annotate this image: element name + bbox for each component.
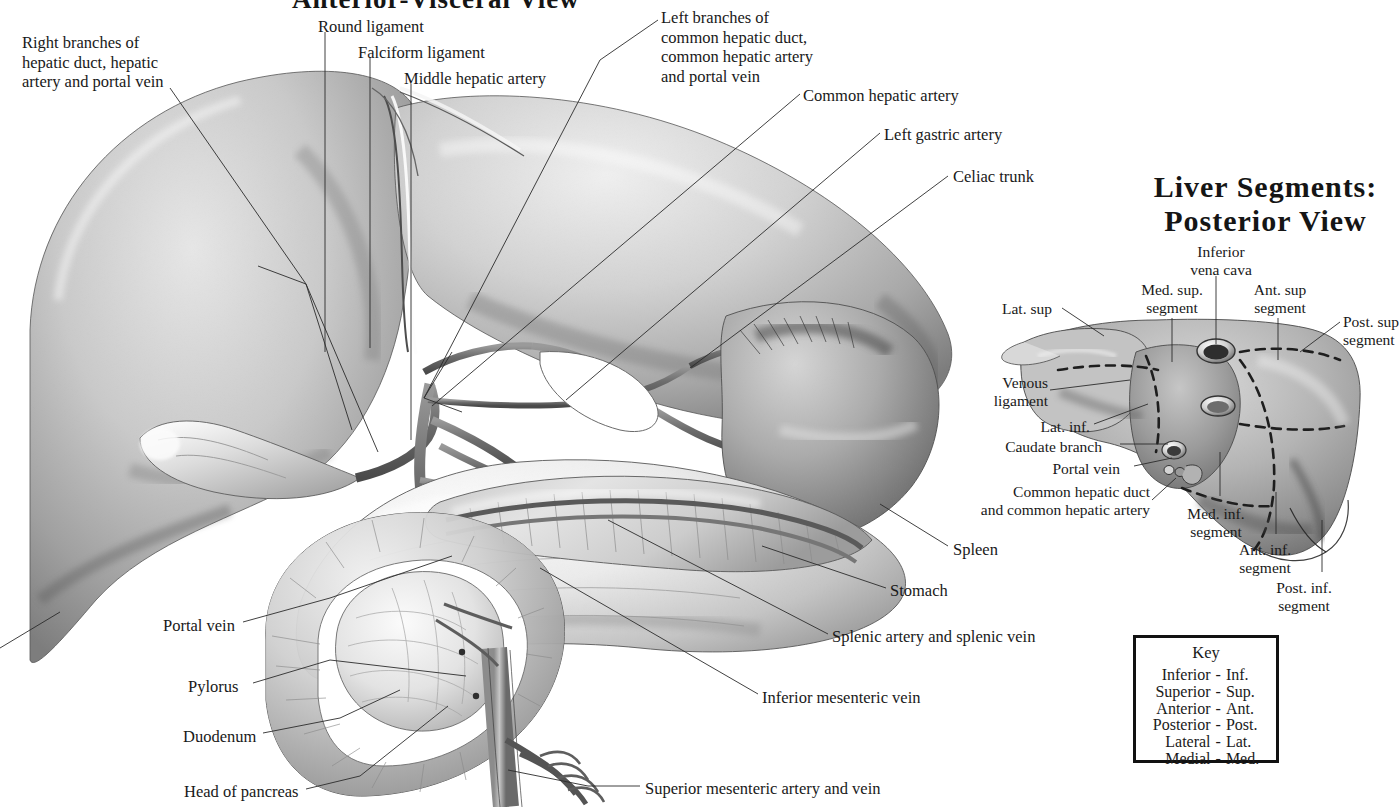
- key-abbrev: Ant.: [1225, 701, 1260, 718]
- superior-mesenteric-vessels: [506, 740, 604, 804]
- label-portal-vein-post: Portal vein: [1036, 460, 1120, 478]
- label-lat-inf: Lat. inf.: [1018, 418, 1090, 436]
- label-duodenum: Duodenum: [183, 727, 256, 747]
- splenic-artery-and-vein: [446, 501, 862, 562]
- label-falciform-ligament: Falciform ligament: [358, 43, 485, 63]
- key-full-term: Anterior: [1152, 701, 1212, 718]
- label-med-sup-segment: Med. sup. segment: [1132, 281, 1212, 317]
- porta-hepatis-vessels: [356, 345, 862, 620]
- liver-right-lobe: [30, 71, 416, 662]
- inferior-vena-cava-opening: [1197, 339, 1235, 363]
- key-box: Key Inferior - Inf. Superior - Sup. Ante…: [1133, 635, 1279, 763]
- plate-main-title: Anterior-Visceral View: [292, 0, 580, 15]
- key-separator: -: [1212, 684, 1225, 701]
- portal-vein-opening: [1201, 396, 1235, 416]
- label-round-ligament: Round ligament: [318, 17, 424, 37]
- spleen: [721, 302, 939, 542]
- key-separator: -: [1212, 667, 1225, 684]
- liver-left-lobe: [394, 96, 951, 427]
- label-lat-sup: Lat. sup: [1002, 300, 1052, 318]
- gallbladder: [140, 421, 360, 499]
- label-superior-mesenteric: Superior mesenteric artery and vein: [645, 779, 881, 799]
- label-spleen: Spleen: [953, 540, 998, 560]
- label-portal-vein-main: Portal vein: [163, 616, 235, 636]
- label-head-of-pancreas: Head of pancreas: [184, 782, 299, 802]
- key-full-term: Posterior: [1152, 717, 1212, 734]
- label-ant-sup-segment: Ant. sup segment: [1244, 281, 1316, 317]
- posterior-view-title: Liver Segments: Posterior View: [1143, 170, 1388, 238]
- lesser-omentum-window: [540, 352, 658, 432]
- key-row: Superior - Sup.: [1152, 684, 1260, 701]
- key-separator: -: [1212, 701, 1225, 718]
- key-abbrev: Inf.: [1225, 667, 1260, 684]
- label-inferior-vena-cava: Inferior vena cava: [1184, 243, 1258, 279]
- falciform-ligament-fold: [372, 88, 524, 354]
- key-row: Lateral - Lat.: [1152, 734, 1260, 751]
- key-title: Key: [1136, 643, 1276, 663]
- label-common-hepatic-artery: Common hepatic artery: [803, 86, 959, 106]
- key-separator: -: [1212, 717, 1225, 734]
- label-caudate-branch: Caudate branch: [984, 438, 1102, 456]
- key-row: Anterior - Ant.: [1152, 701, 1260, 718]
- label-right-branches: Right branches of hepatic duct, hepatic …: [22, 33, 164, 92]
- label-pylorus: Pylorus: [188, 677, 238, 697]
- label-stomach: Stomach: [890, 581, 948, 601]
- key-row: Posterior - Post.: [1152, 717, 1260, 734]
- key-full-term: Medial: [1152, 751, 1212, 768]
- label-celiac-trunk: Celiac trunk: [953, 167, 1034, 187]
- label-inferior-mesenteric-vein: Inferior mesenteric vein: [762, 688, 921, 708]
- key-abbrev: Med.: [1225, 751, 1260, 768]
- posterior-title-line-2: Posterior View: [1143, 204, 1388, 238]
- key-full-term: Superior: [1152, 684, 1212, 701]
- label-left-gastric-artery: Left gastric artery: [884, 125, 1002, 145]
- key-row: Medial - Med.: [1152, 751, 1260, 768]
- key-separator: -: [1212, 734, 1225, 751]
- great-vessels-trunk: [488, 648, 522, 807]
- duodenum: [266, 513, 565, 797]
- label-splenic-artery-and-vein: Splenic artery and splenic vein: [832, 627, 1035, 647]
- label-left-branches: Left branches of common hepatic duct, co…: [661, 8, 813, 86]
- label-middle-hepatic-artery: Middle hepatic artery: [404, 69, 546, 89]
- label-med-inf-segment: Med. inf. segment: [1177, 505, 1255, 541]
- pyloric-vessels: [436, 604, 512, 666]
- label-ant-inf-segment: Ant. inf. segment: [1226, 541, 1304, 577]
- caudate-branch-opening: [1162, 441, 1186, 459]
- key-full-term: Inferior: [1152, 667, 1212, 684]
- key-full-term: Lateral: [1152, 734, 1212, 751]
- head-of-pancreas: [336, 572, 504, 732]
- key-abbrev: Sup.: [1225, 684, 1260, 701]
- pancreas-body-and-tail: [425, 476, 872, 571]
- key-separator: -: [1212, 751, 1225, 768]
- key-abbrev: Lat.: [1225, 734, 1260, 751]
- label-post-sup-segment: Post. sup segment: [1343, 313, 1399, 349]
- label-common-hepatic-duct: Common hepatic duct and common hepatic a…: [962, 483, 1150, 519]
- label-post-inf-segment: Post. inf. segment: [1263, 579, 1345, 615]
- stomach: [296, 460, 905, 680]
- anatomy-plate: Anterior-Visceral View Liver Segments: P…: [0, 0, 1400, 807]
- label-venous-ligament: Venous ligament: [986, 374, 1048, 410]
- key-abbrev: Post.: [1225, 717, 1260, 734]
- posterior-title-line-1: Liver Segments:: [1143, 170, 1388, 204]
- duct-and-artery-stubs: [1164, 465, 1202, 484]
- caudate-lobe: [1130, 345, 1241, 489]
- key-table: Inferior - Inf. Superior - Sup. Anterior…: [1152, 667, 1260, 768]
- key-row: Inferior - Inf.: [1152, 667, 1260, 684]
